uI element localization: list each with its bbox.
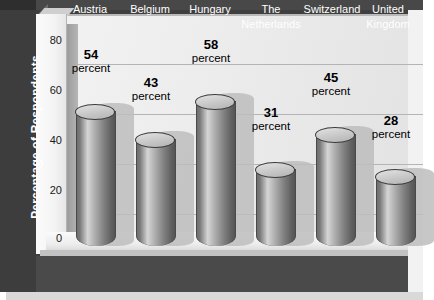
- data-label-value: 28: [362, 114, 420, 128]
- bar-cap-ellipse: [135, 132, 175, 148]
- data-label-unit: percent: [302, 85, 360, 97]
- data-label-value: 45: [302, 71, 360, 85]
- category-label-hungary: Hungary: [180, 2, 240, 17]
- bar-cap-ellipse: [195, 94, 235, 110]
- data-label-unit: percent: [122, 90, 180, 102]
- bar-cap-ellipse: [255, 162, 295, 178]
- bar-cap-ellipse: [375, 169, 415, 185]
- y-axis-title: Percentage of Respondents: [29, 17, 43, 257]
- bar-cap-ellipse: [315, 127, 355, 143]
- bar-cap-ellipse: [75, 104, 115, 120]
- bar-body: [196, 101, 236, 246]
- category-line-2: Kingdom: [358, 17, 418, 32]
- bar-the-netherlands[interactable]: [256, 169, 294, 246]
- bar-hungary[interactable]: [196, 101, 234, 246]
- frame-right-margin: [408, 0, 423, 300]
- data-label-value: 43: [122, 76, 180, 90]
- category-label-austria: Austria: [60, 2, 120, 17]
- category-line-1: Switzerland: [304, 3, 361, 15]
- category-label-belgium: Belgium: [120, 2, 180, 17]
- bar-body: [256, 169, 296, 246]
- data-label-switzerland: 45 percent: [302, 71, 360, 97]
- category-line-1: United: [372, 3, 404, 15]
- data-label-unit: percent: [242, 120, 300, 132]
- bar-body: [76, 111, 116, 246]
- bar-belgium[interactable]: [136, 139, 174, 246]
- bar-body: [136, 139, 176, 246]
- category-line-1: Austria: [73, 3, 107, 15]
- data-label-austria: 54 percent: [62, 48, 120, 74]
- data-label-unit: percent: [62, 62, 120, 74]
- data-label-the-netherlands: 31 percent: [242, 106, 300, 132]
- bar-body: [376, 176, 416, 246]
- category-axis-band: [36, 256, 408, 292]
- data-label-hungary: 58 percent: [182, 38, 240, 64]
- bar-austria[interactable]: [76, 111, 114, 246]
- category-line-2: Netherlands: [236, 17, 306, 32]
- frame-drop-shadow: [6, 292, 423, 300]
- category-label-united-kingdom: United Kingdom: [358, 2, 418, 32]
- bar-body: [316, 134, 356, 246]
- data-label-belgium: 43 percent: [122, 76, 180, 102]
- bar-united-kingdom[interactable]: [376, 176, 414, 246]
- category-line-1: The: [262, 3, 281, 15]
- bar-switzerland[interactable]: [316, 134, 354, 246]
- category-line-1: Hungary: [189, 3, 231, 15]
- data-label-value: 54: [62, 48, 120, 62]
- category-line-1: Belgium: [130, 3, 170, 15]
- data-label-value: 31: [242, 106, 300, 120]
- data-label-united-kingdom: 28 percent: [362, 114, 420, 140]
- data-label-value: 58: [182, 38, 240, 52]
- data-label-unit: percent: [182, 52, 240, 64]
- data-label-unit: percent: [362, 128, 420, 140]
